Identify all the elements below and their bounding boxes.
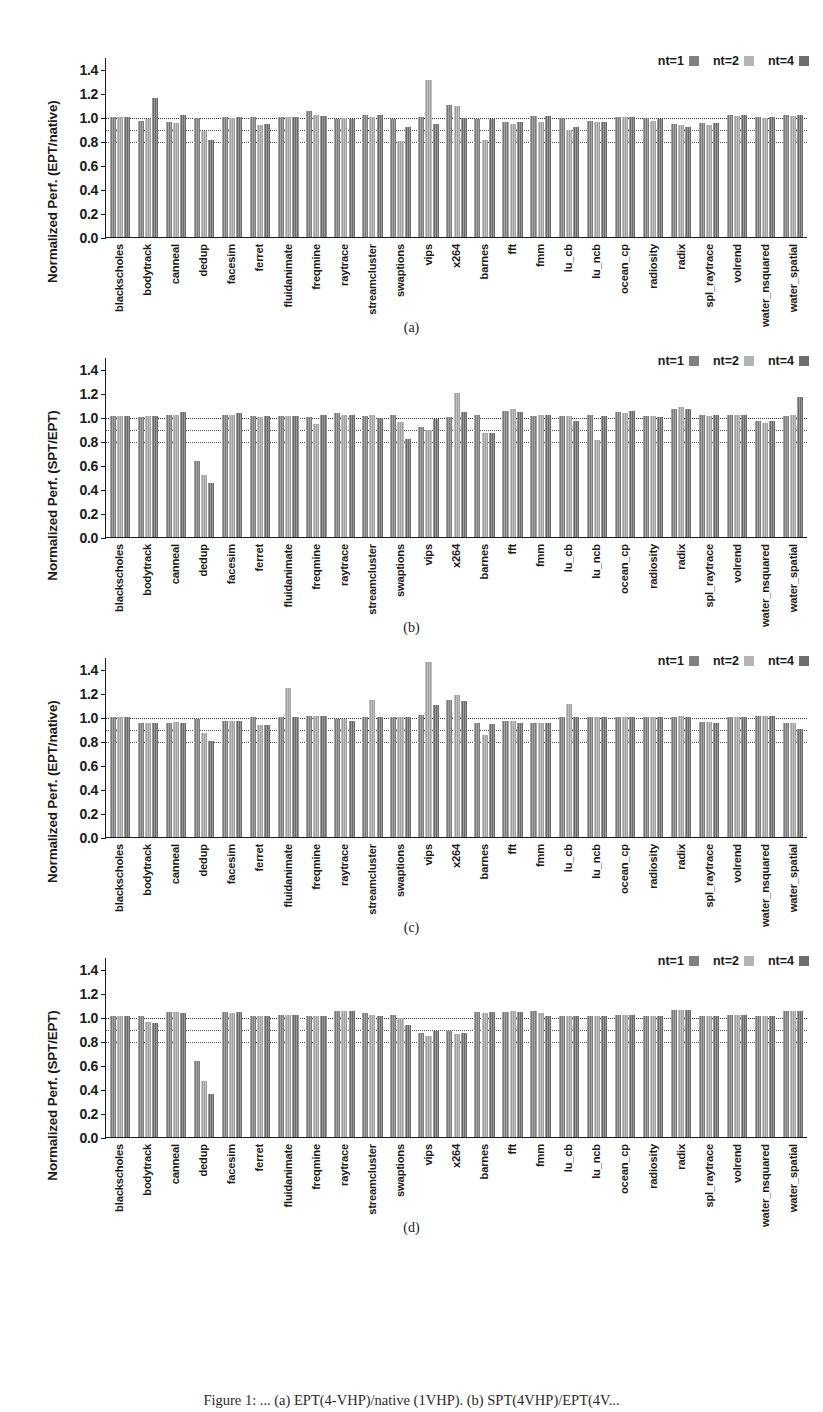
bar	[278, 416, 284, 537]
x-tick-label: blackscholes	[113, 544, 125, 612]
x-tick-label: ferret	[253, 544, 265, 571]
bar	[334, 719, 340, 837]
x-tick-label: ocean_cp	[618, 844, 630, 894]
bar	[117, 117, 123, 237]
bar	[587, 1016, 593, 1137]
bar-group	[274, 658, 302, 837]
y-tick-label: 0.0	[52, 230, 98, 246]
x-tick-label: lu_ncb	[590, 244, 602, 279]
bar	[502, 1012, 508, 1137]
bar-group	[611, 58, 639, 237]
bar-group	[611, 658, 639, 837]
bar	[489, 119, 495, 237]
bar	[229, 415, 235, 537]
y-tick-label: 0.0	[52, 530, 98, 546]
bar	[425, 430, 431, 537]
bar-group	[190, 958, 218, 1137]
bar-group	[639, 358, 667, 537]
bar-group	[667, 958, 695, 1137]
x-tick-label: barnes	[478, 544, 490, 580]
bar	[229, 1013, 235, 1137]
x-tick-label: radix	[675, 844, 687, 870]
bar	[601, 416, 607, 537]
bar	[446, 1031, 452, 1137]
bar	[734, 1015, 740, 1137]
bar-group	[583, 58, 611, 237]
bar-group	[667, 58, 695, 237]
x-tick-label: canneal	[169, 544, 181, 584]
bar	[482, 735, 488, 837]
bar	[510, 721, 516, 837]
x-tick-label: radix	[675, 1144, 687, 1170]
y-tick-label: 0.8	[52, 1034, 98, 1050]
bar-group	[106, 58, 134, 237]
bar	[622, 117, 628, 237]
bar	[587, 717, 593, 837]
bar-group	[471, 358, 499, 537]
bar	[377, 717, 383, 837]
bar	[545, 415, 551, 537]
bar	[334, 1011, 340, 1137]
bar	[418, 117, 424, 237]
bar	[566, 704, 572, 837]
x-tick-label: facesim	[225, 244, 237, 284]
y-tick-label: 0.0	[52, 830, 98, 846]
bar-group	[330, 58, 358, 237]
axis-tick-mark	[101, 1138, 106, 1139]
x-tick-label: spl_raytrace	[703, 844, 715, 908]
bar	[264, 416, 270, 537]
bar	[349, 119, 355, 237]
x-tick-label: water_nsquared	[759, 844, 771, 927]
bar	[657, 119, 663, 237]
y-tick-label: 0.6	[52, 758, 98, 774]
bar-group	[499, 58, 527, 237]
bar	[369, 1015, 375, 1137]
bar	[482, 433, 488, 537]
bar	[629, 717, 635, 837]
bar	[755, 117, 761, 237]
bar	[166, 122, 172, 237]
bar	[433, 419, 439, 537]
bar-group	[218, 958, 246, 1137]
plot-area	[105, 58, 807, 238]
bar	[741, 115, 747, 237]
x-tick-label: water_spatial	[787, 544, 799, 612]
x-tick-label: canneal	[169, 1144, 181, 1184]
bar-group	[695, 658, 723, 837]
bar	[482, 140, 488, 237]
bar	[278, 717, 284, 837]
bar	[601, 122, 607, 237]
bar	[657, 1016, 663, 1137]
x-tick-label: spl_raytrace	[703, 244, 715, 308]
x-tick-label: fluidanimate	[282, 244, 294, 308]
x-tick-label: water_spatial	[787, 1144, 799, 1212]
bar	[292, 117, 298, 237]
x-tick-label: x264	[450, 1144, 462, 1168]
bar	[222, 415, 228, 537]
bar	[306, 417, 312, 537]
bar-series-container	[106, 58, 807, 237]
bar	[783, 115, 789, 237]
x-tick-label: volrend	[731, 244, 743, 283]
bar-group	[274, 358, 302, 537]
bar	[678, 716, 684, 837]
plot-area	[105, 358, 807, 538]
bar	[236, 413, 242, 537]
bar	[362, 416, 368, 537]
x-tick-label: bodytrack	[141, 544, 153, 596]
bar	[208, 741, 214, 837]
figure-page: nt=1nt=2nt=4Normalized Perf. (EPT/native…	[0, 0, 823, 1412]
bar	[285, 1015, 291, 1137]
y-tick-label: 0.8	[52, 134, 98, 150]
y-tick-label: 0.4	[52, 1082, 98, 1098]
bar	[461, 1033, 467, 1137]
x-tick-label: radiosity	[647, 544, 659, 589]
bar	[474, 415, 480, 537]
bar	[650, 416, 656, 537]
bar	[741, 717, 747, 837]
bar-group	[218, 658, 246, 837]
bar	[145, 1022, 151, 1137]
bar-group	[527, 958, 555, 1137]
bar-group	[779, 358, 807, 537]
bar-group	[583, 358, 611, 537]
